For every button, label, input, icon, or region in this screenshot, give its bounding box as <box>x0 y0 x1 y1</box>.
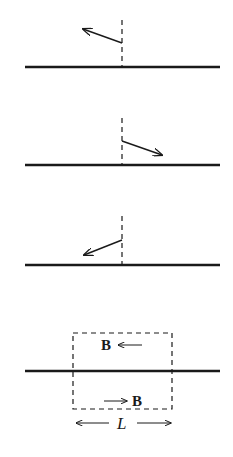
field-arrow-icon <box>83 29 122 43</box>
field-label-top: B <box>101 337 111 353</box>
panel-3 <box>25 216 220 265</box>
length-label: L <box>116 414 126 433</box>
panel-4: B B L <box>25 333 220 433</box>
panel-2 <box>25 118 220 165</box>
diagram-svg: B B L <box>0 0 233 457</box>
panel-1 <box>25 20 220 67</box>
field-label-bottom: B <box>132 393 142 409</box>
field-arrow-icon <box>84 240 122 255</box>
diagram-canvas: B B L <box>0 0 233 457</box>
field-arrow-icon <box>122 141 162 155</box>
